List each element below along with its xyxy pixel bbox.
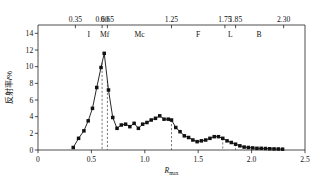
data-point [71,146,75,150]
y-tick-label: 2 [29,129,33,138]
data-point [132,122,136,126]
zone-label-f: F [196,30,200,39]
data-point [234,142,238,146]
y-tick-label: 10 [26,62,34,71]
data-point [149,118,153,122]
zone-label-b: B [257,30,262,39]
data-point [145,121,149,125]
data-point [158,114,162,118]
zone-label-mf: Mf [100,30,110,39]
data-point [187,136,191,140]
data-point [115,127,119,131]
chart-root: 0.350.600.651.251.751.852.30 IMfMcFLB 02… [0,0,318,181]
data-point [141,122,145,126]
data-point [162,117,166,121]
reflectance-distribution-chart: 0.350.600.651.251.751.852.30 IMfMcFLB 02… [0,0,318,181]
top-tick-label: 0.35 [69,15,82,24]
data-point [99,66,103,70]
data-point [217,135,221,139]
chart-background [0,0,318,181]
data-point [225,139,229,143]
data-point [183,134,187,138]
y-tick-label: 12 [26,46,34,55]
data-point [204,138,208,142]
data-point [86,119,90,123]
data-point [191,138,195,142]
data-point [170,118,174,122]
data-point [120,123,124,127]
data-point [95,86,99,90]
x-tick-label: 1.5 [193,155,203,164]
data-point [128,125,132,129]
x-tick-label: 1.0 [140,155,150,164]
y-tick-label: 8 [29,79,33,88]
data-point [277,147,281,151]
data-point [208,137,212,141]
data-point [259,147,263,151]
data-point [251,146,255,150]
data-point [111,116,115,120]
x-tick-label: 2.0 [247,155,257,164]
y-tick-label: 4 [29,112,33,121]
y-tick-label: 14 [26,29,34,38]
data-point [154,117,158,121]
data-point [281,147,285,151]
data-point [167,117,171,121]
data-point [230,141,234,145]
x-tick-label: 0 [36,155,40,164]
data-point [195,140,199,144]
top-tick-label: 1.25 [165,15,178,24]
x-tick-label: 2.5 [300,155,310,164]
y-tick-label: 6 [29,96,33,105]
data-point [268,147,272,151]
top-tick-label: 0.65 [101,15,114,24]
top-tick-label: 1.85 [229,15,242,24]
data-point [200,139,204,143]
data-point [255,147,259,151]
data-point [178,130,182,134]
x-tick-label: 0.5 [87,155,97,164]
data-point [238,144,242,148]
data-point [107,88,111,92]
data-point [212,135,216,139]
data-point [247,146,251,150]
data-point [137,127,141,131]
data-point [264,147,268,151]
top-tick-label: 2.30 [277,15,290,24]
data-point [91,107,95,111]
data-point [77,137,81,141]
chart-svg: 0.350.600.651.251.751.852.30 IMfMcFLB 02… [0,0,318,181]
data-point [82,129,86,133]
data-point [174,126,178,130]
zone-label-l: L [228,30,233,39]
y-axis-title: 反射率/% [4,71,14,104]
data-point [124,122,128,126]
data-point [221,137,225,141]
y-tick-label: 0 [29,146,33,155]
data-point [272,147,276,151]
zone-label-mc: Mc [134,30,145,39]
data-point [102,52,106,56]
data-point [242,145,246,149]
